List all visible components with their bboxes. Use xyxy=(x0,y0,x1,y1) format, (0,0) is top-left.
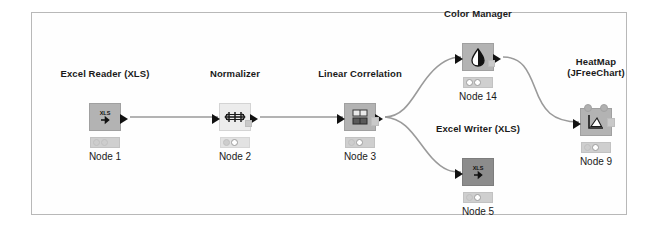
status-light-red xyxy=(93,139,100,146)
status-light-green xyxy=(483,79,490,86)
node-title-heatmap-line1: HeatMap xyxy=(576,56,616,67)
node-label-excel-writer: Node 5 xyxy=(462,206,494,217)
node-title-linear-correlation: Linear Correlation xyxy=(318,68,402,79)
status-light-yellow xyxy=(356,139,363,146)
node-label-normalizer: Node 2 xyxy=(219,151,251,162)
node-body-linear-correlation[interactable] xyxy=(344,103,376,131)
node-title-excel-writer: Excel Writer (XLS) xyxy=(436,123,520,134)
node-secondary-port-linear-correlation[interactable] xyxy=(371,117,379,126)
node-body-excel-writer[interactable]: XLS xyxy=(462,158,494,186)
node-title-color-manager: Color Manager xyxy=(444,8,512,19)
node-status-normalizer xyxy=(220,137,250,148)
status-light-red xyxy=(584,144,591,151)
node-input-port-excel-writer[interactable] xyxy=(455,169,463,179)
node-label-heatmap: Node 9 xyxy=(580,156,612,167)
status-light-red xyxy=(466,194,473,201)
status-light-red xyxy=(223,139,230,146)
node-title-normalizer: Normalizer xyxy=(210,68,260,79)
node-status-excel-writer xyxy=(463,192,493,203)
svg-text:XLS: XLS xyxy=(100,110,111,116)
node-output-port-excel-reader[interactable] xyxy=(120,114,128,124)
node-input-port-normalizer[interactable] xyxy=(212,114,220,124)
status-light-yellow xyxy=(474,79,481,86)
node-body-normalizer[interactable] xyxy=(219,103,251,131)
node-input-port-color-manager[interactable] xyxy=(455,54,463,64)
node-body-excel-reader[interactable]: XLS xyxy=(89,103,121,131)
status-light-red xyxy=(466,79,473,86)
node-input-port-linear-correlation[interactable] xyxy=(337,114,345,124)
node-status-heatmap xyxy=(581,142,611,153)
node-secondary-port-heatmap[interactable] xyxy=(607,118,615,127)
node-label-excel-reader: Node 1 xyxy=(89,151,121,162)
status-light-green xyxy=(110,139,117,146)
xls-read-icon: XLS xyxy=(90,104,120,130)
svg-text:XLS: XLS xyxy=(473,165,484,171)
node-label-color-manager: Node 14 xyxy=(459,91,497,102)
node-secondary-port-color-manager[interactable] xyxy=(488,60,495,67)
node-body-heatmap[interactable] xyxy=(580,108,612,136)
node-label-linear-correlation: Node 3 xyxy=(344,151,376,162)
xls-write-icon: XLS xyxy=(463,159,493,185)
status-light-yellow xyxy=(101,139,108,146)
node-status-color-manager xyxy=(463,77,493,88)
node-status-excel-reader xyxy=(90,137,120,148)
node-status-linear-correlation xyxy=(345,137,375,148)
node-title-heatmap: HeatMap (JFreeChart) xyxy=(567,56,625,78)
node-title-heatmap-line2: (JFreeChart) xyxy=(567,67,625,78)
node-input-port-heatmap[interactable] xyxy=(573,119,581,129)
status-light-green xyxy=(240,139,247,146)
status-light-yellow xyxy=(592,144,599,151)
node-body-color-manager[interactable] xyxy=(462,43,494,71)
status-light-green xyxy=(365,139,372,146)
status-light-red xyxy=(348,139,355,146)
status-light-green xyxy=(601,144,608,151)
status-light-yellow xyxy=(231,139,238,146)
node-secondary-port-normalizer[interactable] xyxy=(245,120,252,127)
status-light-yellow xyxy=(474,194,481,201)
node-title-excel-reader: Excel Reader (XLS) xyxy=(61,68,150,79)
status-light-green xyxy=(483,194,490,201)
